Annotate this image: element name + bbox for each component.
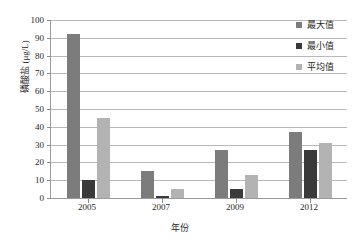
legend-swatch-icon [296,64,302,70]
y-tick-mark [47,20,51,21]
y-tick-mark [47,91,51,92]
y-tick-label: 60 [14,86,44,96]
bar-avg-2007 [171,189,184,198]
bar-max-2012 [289,132,302,198]
y-tick-mark [47,180,51,181]
y-tick-mark [47,198,51,199]
legend-swatch-icon [296,43,302,49]
x-tick-label: 2007 [131,202,191,212]
y-tick-label: 50 [14,104,44,114]
bar-avg-2009 [245,175,258,198]
bar-min-2009 [230,189,243,198]
y-tick-mark [47,38,51,39]
y-tick-label: 80 [14,51,44,61]
legend-swatch-icon [296,22,302,28]
y-tick-mark [47,127,51,128]
bar-group [215,20,258,198]
bar-max-2007 [141,171,154,198]
x-tick-label: 2012 [279,202,339,212]
y-tick-label: 40 [14,122,44,132]
x-tick-label: 2009 [205,202,265,212]
y-tick-mark [47,73,51,74]
bar-avg-2012 [319,143,332,198]
bar-max-2005 [67,34,80,198]
y-tick-label: 70 [14,68,44,78]
x-axis-title: 年份 [0,221,359,234]
y-tick-label: 90 [14,33,44,43]
y-tick-label: 0 [14,193,44,203]
bar-group [141,20,184,198]
bar-min-2012 [304,150,317,198]
legend-label: 最小值 [307,39,334,52]
legend-item[interactable]: 平均值 [296,56,359,77]
legend-item[interactable]: 最大值 [296,14,359,35]
bar-chart: 磷酸盐 (μg/L) 0102030405060708090100 200520… [0,0,359,243]
legend-label: 平均值 [307,60,334,73]
bar-avg-2005 [97,118,110,198]
y-tick-label: 10 [14,175,44,185]
bar-group [67,20,110,198]
y-tick-mark [47,162,51,163]
y-tick-label: 30 [14,140,44,150]
x-axis-tick-labels: 2005200720092012 [50,202,346,216]
y-axis-tick-labels: 0102030405060708090100 [14,14,44,198]
y-tick-mark [47,109,51,110]
bar-max-2009 [215,150,228,198]
chart-legend: 最大值最小值平均值 [296,14,359,77]
legend-item[interactable]: 最小值 [296,35,359,56]
legend-label: 最大值 [307,18,334,31]
bar-min-2005 [82,180,95,198]
x-tick-label: 2005 [57,202,117,212]
y-tick-mark [47,56,51,57]
y-tick-mark [47,145,51,146]
y-tick-label: 100 [14,15,44,25]
y-tick-label: 20 [14,157,44,167]
